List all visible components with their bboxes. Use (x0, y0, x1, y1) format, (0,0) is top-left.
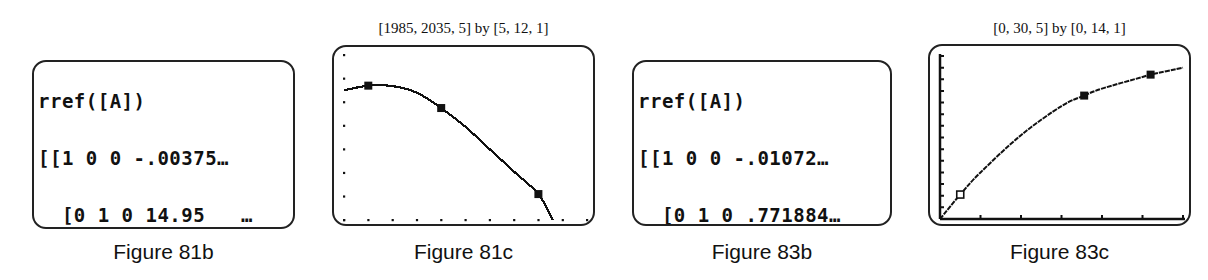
graph-screen-81c (332, 45, 595, 226)
command-line: rref([A]) (38, 92, 253, 111)
window-settings: [0, 30, 5] by [0, 14, 1] (928, 20, 1191, 37)
matrix-row-2: [0 1 0 14.95 … (38, 206, 253, 225)
rref-output-83b: rref([A]) [[1 0 0 -.01072… [0 1 0 .77188… (638, 60, 841, 226)
calculator-screen-81b: rref([A]) [[1 0 0 -.00375… [0 1 0 14.95 … (32, 60, 295, 229)
calculator-screen-83b: rref([A]) [[1 0 0 -.01072… [0 1 0 .77188… (632, 60, 892, 226)
matrix-row-1: [[1 0 0 -.00375… (38, 149, 253, 168)
graph-81c (334, 47, 595, 226)
window-settings: [1985, 2035, 5] by [5, 12, 1] (332, 20, 595, 37)
rref-output-81b: rref([A]) [[1 0 0 -.00375… [0 1 0 14.95 … (38, 60, 253, 229)
figure-caption: Figure 83c (928, 240, 1191, 264)
graph-83c (930, 46, 1191, 226)
figure-caption: Figure 81b (32, 240, 295, 264)
graph-screen-83c (928, 44, 1191, 226)
matrix-row-1: [[1 0 0 -.01072… (638, 149, 841, 168)
figure-caption: Figure 81c (332, 240, 595, 264)
matrix-row-2: [0 1 0 .771884… (638, 206, 841, 225)
command-line: rref([A]) (638, 92, 841, 111)
figure-caption: Figure 83b (632, 240, 892, 264)
